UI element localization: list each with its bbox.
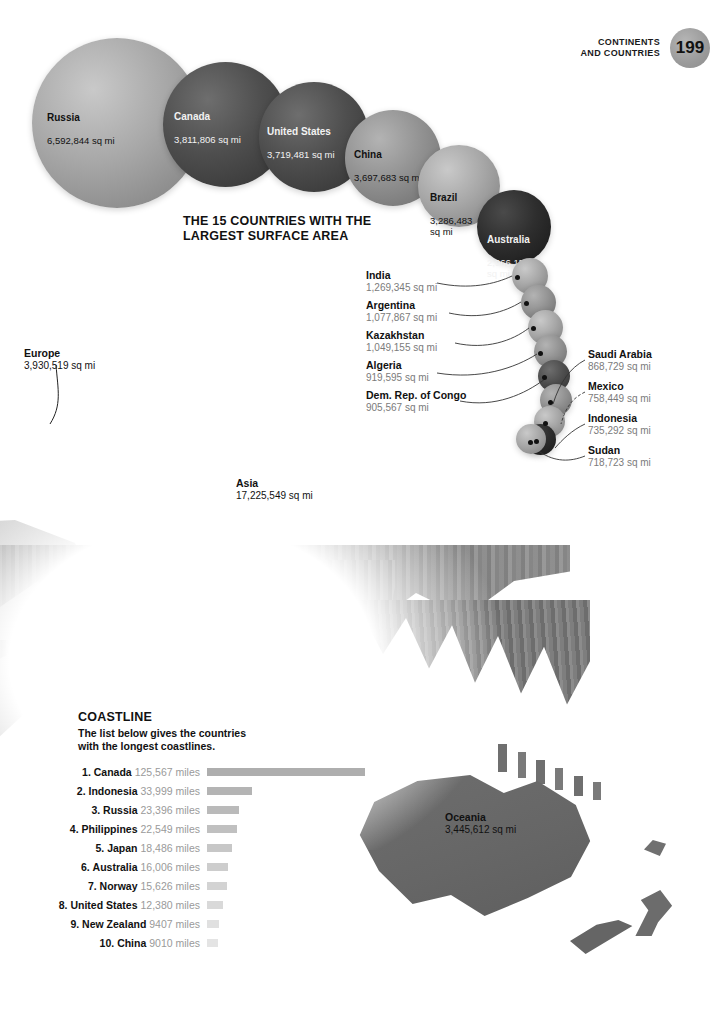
continent-label-europe: Europe 3,930,519 sq mi xyxy=(24,347,95,372)
page-number-badge: 199 xyxy=(670,28,710,68)
bubble-dot-india xyxy=(515,275,520,280)
coastline-country: United States xyxy=(70,899,137,911)
bubble-australia[interactable] xyxy=(477,190,551,264)
callout-name-mexico: Mexico xyxy=(588,380,651,393)
coastline-country: Japan xyxy=(107,842,137,854)
page-header: CONTINENTS AND COUNTRIES 199 xyxy=(580,28,710,68)
callout-saudi-arabia: Saudi Arabia 868,729 sq mi xyxy=(588,348,652,373)
coastline-row-label: 10. China 9010 miles xyxy=(0,937,200,949)
callout-mexico: Mexico 758,449 sq mi xyxy=(588,380,651,405)
coastline-row: 10. China 9010 miles xyxy=(0,933,380,952)
coastline-bar xyxy=(207,787,252,795)
callout-name-sudan: Sudan xyxy=(588,444,651,457)
header-title: CONTINENTS AND COUNTRIES xyxy=(580,37,660,59)
bubble-dot-saudi-arabia xyxy=(548,400,553,405)
coastline-bar xyxy=(207,882,227,890)
coastline-bar-wrap xyxy=(207,863,228,871)
map-island-new-zealand-north xyxy=(630,890,684,936)
coastline-row-label: 1. Canada 125,567 miles xyxy=(0,766,200,778)
callout-name-india: India xyxy=(366,269,437,282)
coastline-value: 23,396 miles xyxy=(140,804,200,816)
callout-argentina: Argentina 1,077,867 sq mi xyxy=(366,299,437,324)
coastline-row-label: 2. Indonesia 33,999 miles xyxy=(0,785,200,797)
coastline-row-label: 8. United States 12,380 miles xyxy=(0,899,200,911)
coastline-bar xyxy=(207,920,219,928)
callout-name-argentina: Argentina xyxy=(366,299,437,312)
coastline-rank: 3. xyxy=(91,804,100,816)
coastline-rank: 10. xyxy=(100,937,115,949)
callout-algeria: Algeria 919,595 sq mi xyxy=(366,359,429,384)
callout-name-algeria: Algeria xyxy=(366,359,429,372)
coastline-value: 12,380 miles xyxy=(140,899,200,911)
coastline-row-label: 5. Japan 18,486 miles xyxy=(0,842,200,854)
callout-name-indonesia: Indonesia xyxy=(588,412,651,425)
coastline-bar-wrap xyxy=(207,920,219,928)
coastline-row: 2. Indonesia 33,999 miles xyxy=(0,781,380,800)
bubble-dot-sudan xyxy=(528,440,533,445)
coastline-bar xyxy=(207,825,237,833)
coastline-rank: 7. xyxy=(88,880,97,892)
coastline-panel: COASTLINE The list below gives the count… xyxy=(78,710,246,753)
callout-value-algeria: 919,595 sq mi xyxy=(366,372,429,383)
coastline-country: China xyxy=(117,937,146,949)
coastline-row: 3. Russia 23,396 miles xyxy=(0,800,380,819)
callout-india: India 1,269,345 sq mi xyxy=(366,269,437,294)
coastline-value: 18,486 miles xyxy=(140,842,200,854)
bubble-dot-mexico xyxy=(543,421,548,426)
callout-value-sudan: 718,723 sq mi xyxy=(588,457,651,468)
continent-value-europe: 3,930,519 sq mi xyxy=(24,360,95,371)
coastline-rank: 6. xyxy=(81,861,90,873)
coastline-bar xyxy=(207,806,239,814)
coastline-rank: 4. xyxy=(70,823,79,835)
coastline-row: 4. Philippines 22,549 miles xyxy=(0,819,380,838)
coastline-row: 5. Japan 18,486 miles xyxy=(0,838,380,857)
callout-value-dem-rep-of-congo: 905,567 sq mi xyxy=(366,402,429,413)
coastline-heading: COASTLINE xyxy=(78,710,246,724)
coastline-row-label: 4. Philippines 22,549 miles xyxy=(0,823,200,835)
coastline-row-label: 3. Russia 23,396 miles xyxy=(0,804,200,816)
coastline-value: 9407 miles xyxy=(149,918,200,930)
coastline-list: 1. Canada 125,567 miles2. Indonesia 33,9… xyxy=(0,762,380,952)
bubble-dot-kazakhstan xyxy=(531,326,536,331)
coastline-bar-wrap xyxy=(207,787,252,795)
coastline-country: Canada xyxy=(94,766,132,778)
chart-title: THE 15 COUNTRIES WITH THE LARGEST SURFAC… xyxy=(183,214,371,244)
callout-name-dem-rep-of-congo: Dem. Rep. of Congo xyxy=(366,389,466,402)
bubble-dot-algeria xyxy=(538,351,543,356)
callout-value-india: 1,269,345 sq mi xyxy=(366,282,437,293)
continent-name-asia: Asia xyxy=(236,477,313,490)
coastline-row: 1. Canada 125,567 miles xyxy=(0,762,380,781)
coastline-value: 125,567 miles xyxy=(135,766,200,778)
callout-sudan: Sudan 718,723 sq mi xyxy=(588,444,651,469)
callout-value-saudi-arabia: 868,729 sq mi xyxy=(588,361,651,372)
coastline-country: Norway xyxy=(100,880,138,892)
coastline-bar xyxy=(207,901,223,909)
coastline-bar xyxy=(207,939,218,947)
coastline-row: 9. New Zealand 9407 miles xyxy=(0,914,380,933)
coastline-bar-wrap xyxy=(207,844,232,852)
callout-kazakhstan: Kazakhstan 1,049,155 sq mi xyxy=(366,329,437,354)
coastline-row-label: 9. New Zealand 9407 miles xyxy=(0,918,200,930)
coastline-row: 6. Australia 16,006 miles xyxy=(0,857,380,876)
bubble-dot-indonesia xyxy=(534,439,539,444)
coastline-bar-wrap xyxy=(207,768,365,776)
coastline-row-label: 6. Australia 16,006 miles xyxy=(0,861,200,873)
bubble-dot-argentina xyxy=(524,301,529,306)
callout-value-kazakhstan: 1,049,155 sq mi xyxy=(366,342,437,353)
coastline-rank: 1. xyxy=(82,766,91,778)
continent-name-oceania: Oceania xyxy=(445,811,516,824)
callout-dem-rep-of-congo: Dem. Rep. of Congo 905,567 sq mi xyxy=(366,389,466,414)
coastline-country: New Zealand xyxy=(82,918,146,930)
coastline-bar-wrap xyxy=(207,882,227,890)
callout-name-saudi-arabia: Saudi Arabia xyxy=(588,348,652,361)
continent-value-asia: 17,225,549 sq mi xyxy=(236,490,313,501)
coastline-value: 33,999 miles xyxy=(140,785,200,797)
coastline-rank: 9. xyxy=(70,918,79,930)
coastline-intro: The list below gives the countries with … xyxy=(78,727,246,753)
coastline-value: 15,626 miles xyxy=(140,880,200,892)
map-island-fiji xyxy=(644,840,666,856)
map-island-new-zealand-south xyxy=(570,920,648,954)
coastline-bar-wrap xyxy=(207,939,218,947)
callout-name-kazakhstan: Kazakhstan xyxy=(366,329,437,342)
coastline-country: Philippines xyxy=(82,823,138,835)
